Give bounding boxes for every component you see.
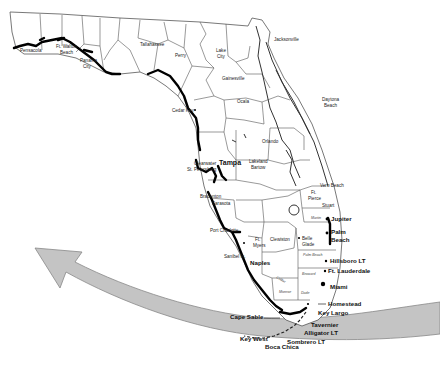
label-ft-walton-beach: Beach bbox=[60, 50, 73, 55]
label-lakeland: Lakeland bbox=[249, 159, 268, 164]
label-dade: Dade bbox=[301, 291, 310, 295]
label-miami: Miami bbox=[330, 283, 348, 290]
label-sanibel: Sanibel Is. bbox=[224, 254, 245, 259]
label-monroe: Monroe bbox=[279, 290, 291, 294]
label-tavernier: Tavernier bbox=[311, 321, 339, 328]
label-sarasota: Sarasota bbox=[212, 201, 231, 206]
label-bartow: Bartow bbox=[251, 165, 266, 170]
label-stuart: Stuart bbox=[322, 203, 335, 208]
label-tallahassee: Tallahassee bbox=[140, 42, 165, 47]
label-ft-lauderdale: Ft. Lauderdale bbox=[328, 267, 371, 274]
label-alligator-lt: Alligator LT bbox=[304, 329, 338, 336]
label-cape-sable: Cape Sable bbox=[230, 313, 264, 320]
label-ocala: Ocala bbox=[237, 99, 249, 104]
label-orlando: Orlando bbox=[262, 139, 279, 144]
label-boca-chica: Boca Chica bbox=[265, 343, 299, 350]
label-lake-city: City bbox=[217, 54, 226, 59]
label-tampa: Tampa bbox=[219, 159, 241, 167]
label-lake: Lake bbox=[216, 48, 226, 53]
label-homestead: Homestead bbox=[328, 300, 362, 307]
label-key-west: Key West bbox=[240, 335, 268, 342]
label-clearwater: Clearwater bbox=[194, 161, 217, 166]
label-jacksonville: Jacksonville bbox=[274, 37, 299, 42]
label-broward: Broward bbox=[302, 272, 316, 276]
label-panama-city: City bbox=[83, 64, 92, 69]
label-palm-beach: Beach bbox=[331, 236, 350, 243]
florida-map: Pensacola Ft. Walton Beach Panama City T… bbox=[0, 0, 440, 371]
migration-arrow bbox=[35, 248, 440, 340]
label-naples: Naples bbox=[250, 259, 271, 266]
label-bradenton: Bradenton bbox=[200, 194, 222, 199]
label-cedar-key: Cedar Key bbox=[172, 108, 194, 113]
label-martin: Martin bbox=[311, 216, 321, 220]
label-panama: Panama bbox=[80, 58, 98, 63]
label-ft-2: Ft. bbox=[255, 237, 260, 242]
label-perry: Perry bbox=[175, 53, 187, 58]
label-st-petersburg: St. Petersburg bbox=[187, 167, 217, 172]
label-ft-myers: Myers bbox=[253, 243, 266, 248]
label-palm-beach-county: Palm Beach bbox=[303, 253, 322, 257]
label-pensacola: Pensacola bbox=[20, 48, 42, 53]
label-clewiston: Clewiston bbox=[270, 237, 290, 242]
label-daytona: Daytona bbox=[322, 97, 340, 102]
label-gainesville: Gainesville bbox=[222, 76, 245, 81]
label-ft-pierce: Pierce bbox=[308, 196, 321, 201]
label-port-charlotte: Port Charlotte bbox=[210, 228, 239, 233]
label-key-largo: Key Largo bbox=[318, 309, 348, 316]
label-ft: Ft. bbox=[311, 190, 316, 195]
label-daytona-beach: Beach bbox=[324, 103, 337, 108]
label-vero-beach: Vero Beach bbox=[320, 183, 344, 188]
label-belle: Belle bbox=[302, 236, 313, 241]
label-hillsboro-lt: Hillsboro LT bbox=[330, 257, 366, 264]
label-belle-glade: Glade bbox=[302, 242, 315, 247]
label-palm: Palm bbox=[331, 228, 346, 235]
label-ft-walton: Ft. Walton bbox=[56, 44, 77, 49]
label-jupiter: Jupiter bbox=[331, 215, 352, 222]
